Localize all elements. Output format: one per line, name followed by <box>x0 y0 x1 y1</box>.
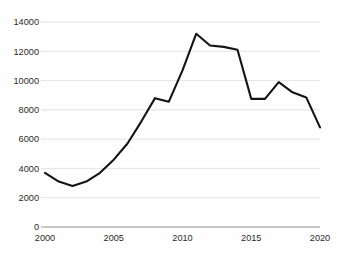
y-axis-tick-label: 12000 <box>13 47 39 57</box>
y-axis-tick-label: 2000 <box>19 193 39 203</box>
y-axis-tick-label: 10000 <box>13 76 39 86</box>
x-axis-tick-label: 2010 <box>172 233 192 243</box>
x-axis-tick-label: 2000 <box>35 233 55 243</box>
line-chart: 02000400060008000100001200014000 2000200… <box>0 0 343 258</box>
y-axis-tick-label: 4000 <box>19 164 39 174</box>
chart-background <box>0 0 343 258</box>
x-axis-tick-label: 2015 <box>241 233 261 243</box>
chart-canvas: 02000400060008000100001200014000 2000200… <box>0 0 343 258</box>
y-axis-tick-label: 0 <box>34 222 39 232</box>
y-axis-tick-label: 8000 <box>19 105 39 115</box>
y-axis-tick-label: 14000 <box>13 17 39 27</box>
y-axis-tick-label: 6000 <box>19 134 39 144</box>
x-axis-tick-label: 2005 <box>104 233 124 243</box>
x-axis-tick-label: 2020 <box>310 233 330 243</box>
